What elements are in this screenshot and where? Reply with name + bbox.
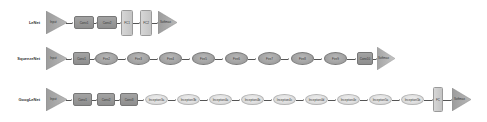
conv-label: Conv3 [125, 98, 134, 102]
arrow [360, 100, 367, 101]
input-label: Input [50, 20, 57, 24]
arrow [314, 59, 321, 60]
fire-label: Fire5 [200, 57, 207, 61]
fc-label: FC [436, 98, 440, 102]
inception-module: Inception3b [177, 94, 200, 105]
conv-block: Conv2 [97, 16, 117, 29]
arrow [118, 59, 125, 60]
fire-label: Fire9 [332, 57, 339, 61]
inception-module: Inception4d [305, 94, 328, 105]
conv-block: Conv1 [73, 93, 92, 106]
arrow [443, 100, 451, 101]
fire-label: Fire7 [266, 57, 273, 61]
inception-module: Inception4a [209, 94, 232, 105]
fire-module: Fire7 [258, 52, 281, 65]
arrow [373, 59, 376, 60]
inception-module: Inception5b [401, 94, 424, 105]
fire-label: Fire4 [167, 57, 174, 61]
conv-label: Conv1 [78, 98, 87, 102]
fire-module: Fire5 [192, 52, 215, 65]
network-architecture-diagram: LeNet Input Conv1 Conv2 FC1 FC2 Softmax … [0, 0, 487, 122]
fire-module: Fire8 [291, 52, 314, 65]
inception-label: Inception4e [341, 98, 357, 102]
inception-label: Inception4b [245, 98, 261, 102]
arrow [168, 100, 175, 101]
fire-label: Fire8 [299, 57, 306, 61]
fc-label: FC2 [143, 21, 149, 25]
row-label-squeezenet: SqueezeNet [2, 56, 40, 61]
row-label-googlenet: GoogLeNet [2, 97, 40, 102]
arrow [150, 59, 157, 60]
input-label: Input [50, 56, 57, 60]
fc-label: FC1 [124, 21, 130, 25]
arrow [152, 23, 157, 24]
arrow [392, 100, 399, 101]
conv-block: Conv3 [120, 93, 138, 106]
fc-block: FC1 [121, 10, 133, 36]
arrow [90, 59, 94, 60]
input-label: Input [50, 97, 57, 101]
arrow [66, 23, 72, 24]
conv-label: Conv10 [360, 57, 370, 61]
arrow [200, 100, 207, 101]
arrow [296, 100, 303, 101]
inception-label: Inception5a [373, 98, 389, 102]
arrow [264, 100, 271, 101]
arrow [281, 59, 288, 60]
inception-label: Inception3b [181, 98, 197, 102]
arrow [92, 100, 96, 101]
conv-block: Conv1 [73, 52, 90, 65]
arrow [66, 100, 71, 101]
conv-label: Conv1 [77, 57, 86, 61]
inception-module: Inception3a [145, 94, 168, 105]
conv-block: Conv2 [97, 93, 115, 106]
fire-label: Fire3 [135, 57, 142, 61]
fire-module: Fire2 [95, 52, 118, 65]
softmax-label: Softmax [378, 56, 389, 60]
fc-block: FC2 [140, 10, 152, 36]
arrow [248, 59, 255, 60]
arrow [232, 100, 239, 101]
arrow [138, 100, 143, 101]
fc-block: FC [433, 87, 443, 112]
conv-label: Conv2 [102, 98, 111, 102]
row-label-lenet: LeNet [2, 20, 40, 25]
fire-module: Fire4 [159, 52, 182, 65]
fire-module: Fire9 [324, 52, 347, 65]
arrow [328, 100, 335, 101]
inception-module: Inception4e [337, 94, 360, 105]
arrow [117, 23, 120, 24]
conv-label: Conv1 [80, 21, 89, 25]
softmax-label: Softmax [454, 97, 465, 101]
arrow [424, 100, 432, 101]
inception-label: Inception4a [213, 98, 229, 102]
arrow [66, 59, 71, 60]
inception-module: Inception4b [241, 94, 264, 105]
fire-label: Fire6 [233, 57, 240, 61]
arrow [94, 23, 96, 24]
conv-block: Conv1 [74, 16, 94, 29]
arrow [115, 100, 119, 101]
softmax-label: Softmax [160, 20, 171, 24]
fire-label: Fire2 [103, 57, 110, 61]
conv-label: Conv2 [103, 21, 112, 25]
inception-label: Inception3a [149, 98, 165, 102]
conv-block: Conv10 [357, 52, 373, 65]
arrow [182, 59, 189, 60]
arrow [215, 59, 222, 60]
inception-label: Inception4d [309, 98, 325, 102]
fire-module: Fire3 [127, 52, 150, 65]
arrow [347, 59, 355, 60]
inception-module: Inception5a [369, 94, 392, 105]
inception-module: Inception4c [273, 94, 296, 105]
inception-label: Inception5b [405, 98, 421, 102]
inception-label: Inception4c [277, 98, 292, 102]
fire-module: Fire6 [225, 52, 248, 65]
arrow [133, 23, 139, 24]
